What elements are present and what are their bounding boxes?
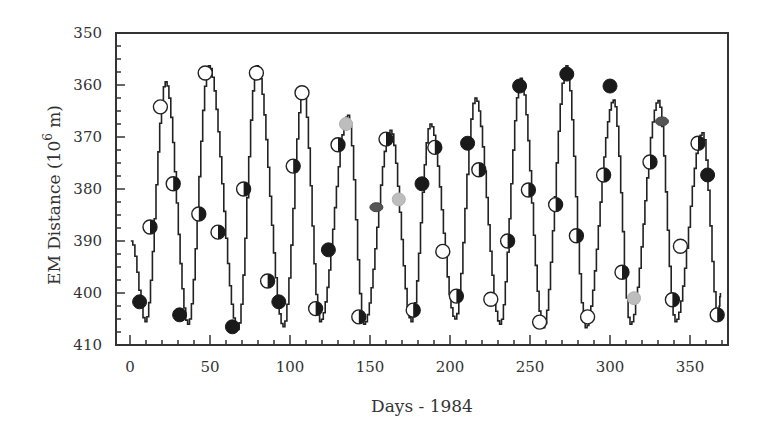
data-point-half (309, 302, 323, 316)
data-point-half (472, 163, 486, 177)
data-point-grey (392, 193, 405, 206)
data-point-half (501, 234, 515, 248)
x-tick-label: 300 (596, 358, 625, 376)
y-tick-label: 350 (73, 24, 102, 42)
data-point-half (449, 289, 463, 303)
data-point-half (192, 207, 206, 221)
data-point-half (710, 308, 724, 322)
data-point-half (166, 177, 180, 191)
data-point-filled (513, 79, 527, 93)
x-tick-label: 150 (356, 358, 385, 376)
data-point-half (331, 138, 345, 152)
data-point-half (143, 220, 157, 234)
chart: 350360370380390400410 050100150200250300… (0, 0, 764, 434)
data-point-filled (701, 168, 715, 182)
data-point-open (295, 86, 309, 100)
data-point-open (198, 66, 212, 80)
y-tick-label: 410 (73, 336, 102, 354)
data-point-half (379, 132, 393, 146)
x-tick-label: 200 (436, 358, 465, 376)
data-point-half (643, 155, 657, 169)
data-point-half (597, 168, 611, 182)
data-point-half (691, 136, 705, 150)
y-axis-title: EM Distance (106 m) (41, 105, 64, 285)
data-point-half (428, 140, 442, 154)
data-point-half (286, 159, 300, 173)
data-point-open (249, 66, 263, 80)
data-point-dark (656, 117, 669, 126)
x-tick-label: 0 (125, 358, 135, 376)
observation-markers (133, 66, 725, 334)
data-point-filled (321, 243, 335, 257)
data-point-grey (340, 118, 353, 131)
stepped-curve (131, 66, 721, 330)
data-point-half (211, 225, 225, 239)
data-point-half (352, 310, 366, 324)
data-point-half (261, 274, 275, 288)
data-point-filled (461, 136, 475, 150)
data-point-filled (560, 67, 574, 81)
x-tick-label: 250 (516, 358, 545, 376)
data-point-filled (225, 320, 239, 334)
data-point-filled (415, 177, 429, 191)
y-axis: 350360370380390400410 (73, 24, 125, 354)
data-point-half (521, 183, 535, 197)
data-point-open (484, 292, 498, 306)
data-point-dark (370, 203, 383, 212)
y-tick-label: 380 (73, 180, 102, 198)
y-tick-label: 360 (73, 76, 102, 94)
data-point-half (549, 198, 563, 212)
x-tick-label: 100 (276, 358, 305, 376)
data-point-half (237, 182, 251, 196)
x-axis: 050100150200250300350 (125, 335, 722, 376)
data-point-open (673, 239, 687, 253)
model-curve (131, 66, 721, 330)
x-tick-label: 50 (200, 358, 219, 376)
y-tick-label: 400 (73, 284, 102, 302)
data-point-grey (628, 292, 641, 305)
data-point-filled (272, 295, 286, 309)
data-point-filled (603, 79, 617, 93)
data-point-half (406, 303, 420, 317)
data-point-filled (173, 308, 187, 322)
y-tick-label: 370 (73, 128, 102, 146)
data-point-half (569, 229, 583, 243)
data-point-open (436, 244, 450, 258)
data-point-filled (133, 295, 147, 309)
data-point-half (665, 293, 679, 307)
x-axis-title: Days - 1984 (371, 396, 473, 416)
data-point-open (533, 315, 547, 329)
data-point-open (153, 100, 167, 114)
x-tick-label: 350 (676, 358, 705, 376)
data-point-half (615, 265, 629, 279)
data-point-open (581, 310, 595, 324)
y-tick-label: 390 (73, 232, 102, 250)
